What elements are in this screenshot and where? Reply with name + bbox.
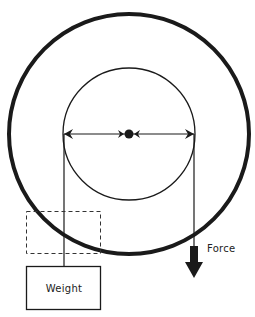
weight-label: Weight (46, 283, 83, 294)
center-hub (125, 130, 134, 139)
force-label: Force (207, 243, 236, 254)
force-arrow-icon (185, 246, 203, 278)
wheel-and-axle-diagram: Weight Force (0, 0, 255, 317)
